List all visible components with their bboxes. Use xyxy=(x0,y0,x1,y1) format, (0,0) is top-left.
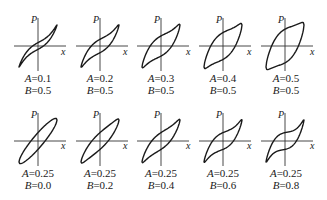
param-b-caption: B=0.5 xyxy=(131,85,191,96)
param-b-caption: B=0.5 xyxy=(256,85,316,96)
param-b-caption: B=0.4 xyxy=(131,180,191,191)
p-axis-label: P xyxy=(154,15,160,25)
x-axis-label: x xyxy=(186,47,190,57)
param-a-caption: A=0.25 xyxy=(131,168,191,179)
p-axis-label: P xyxy=(278,110,284,120)
param-b-caption: B=0.8 xyxy=(256,180,316,191)
param-a-caption: A=0.25 xyxy=(193,168,253,179)
param-b-caption: B=0.6 xyxy=(193,180,253,191)
p-axis-label: P xyxy=(93,110,99,120)
param-a-caption: A=0.25 xyxy=(256,168,316,179)
param-a-caption: A=0.2 xyxy=(70,73,130,84)
x-axis-label: x xyxy=(186,141,190,151)
param-a-caption: A=0.4 xyxy=(193,73,253,84)
hysteresis-panel xyxy=(199,18,251,71)
p-axis-label: P xyxy=(278,15,284,25)
param-a-caption: A=0.5 xyxy=(256,73,316,84)
p-axis-label: P xyxy=(154,110,160,120)
hysteresis-panel xyxy=(14,18,66,71)
param-a-caption: A=0.3 xyxy=(131,73,191,84)
hysteresis-panel xyxy=(76,18,128,71)
hysteresis-panel xyxy=(137,113,189,166)
param-b-caption: B=0.0 xyxy=(8,180,68,191)
param-b-caption: B=0.5 xyxy=(8,85,68,96)
x-axis-label: x xyxy=(123,141,127,151)
p-axis-label: P xyxy=(216,15,222,25)
x-axis-label: x xyxy=(123,47,127,57)
p-axis-label: P xyxy=(31,110,37,120)
x-axis-label: x xyxy=(310,141,314,151)
param-b-caption: B=0.5 xyxy=(70,85,130,96)
p-axis-label: P xyxy=(93,15,99,25)
x-axis-label: x xyxy=(247,47,251,57)
hysteresis-panel xyxy=(137,18,189,71)
x-axis-label: x xyxy=(61,141,65,151)
hysteresis-panel xyxy=(261,18,313,71)
p-axis-label: P xyxy=(216,110,222,120)
hysteresis-panel xyxy=(14,113,66,166)
x-axis-label: x xyxy=(310,47,314,57)
p-axis-label: P xyxy=(31,15,37,25)
hysteresis-panel xyxy=(199,113,251,166)
x-axis-label: x xyxy=(61,47,65,57)
param-b-caption: B=0.2 xyxy=(70,180,130,191)
x-axis-label: x xyxy=(247,141,251,151)
param-a-caption: A=0.1 xyxy=(8,73,68,84)
param-a-caption: A=0.25 xyxy=(8,168,68,179)
param-b-caption: B=0.5 xyxy=(193,85,253,96)
param-a-caption: A=0.25 xyxy=(70,168,130,179)
hysteresis-panel xyxy=(261,113,313,166)
hysteresis-panel xyxy=(76,113,128,166)
